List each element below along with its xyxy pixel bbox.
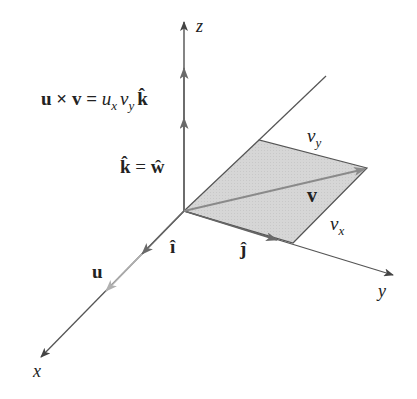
vy-label: vy (307, 125, 321, 150)
k-equals-w-label: k̂ = ŵ (120, 156, 165, 177)
i-hat-label: î (169, 236, 176, 257)
v-label: v (307, 184, 317, 206)
cross-product-vy-sub: y (126, 98, 134, 113)
cross-product-equation: u × v = uxvyk̂ (41, 88, 148, 113)
cross-product-lhs: u × v = (41, 88, 102, 109)
cross-product-ux-sub: x (110, 98, 117, 113)
cross-product-diagram: z y x u × v = uxvyk̂ k̂ = ŵ î ĵ u v vy v… (0, 0, 417, 399)
vy-sub: y (313, 135, 321, 150)
w-hat-text: ŵ (151, 156, 165, 177)
vx-label: vx (330, 213, 344, 238)
cross-product-k: k̂ (137, 88, 148, 109)
vx-sub: x (337, 223, 344, 238)
z-axis-label: z (195, 16, 203, 36)
j-hat-label: ĵ (239, 238, 247, 259)
cross-product-ux: u (102, 88, 112, 109)
x-axis-label: x (32, 361, 41, 381)
equals-sign: = (131, 156, 151, 177)
y-axis-label: y (376, 281, 386, 301)
k-hat-text: k̂ (120, 156, 131, 177)
i-hat-vector (142, 211, 184, 254)
diagonal-guide-line (259, 76, 326, 140)
u-vector (106, 254, 142, 291)
u-label: u (92, 261, 103, 282)
